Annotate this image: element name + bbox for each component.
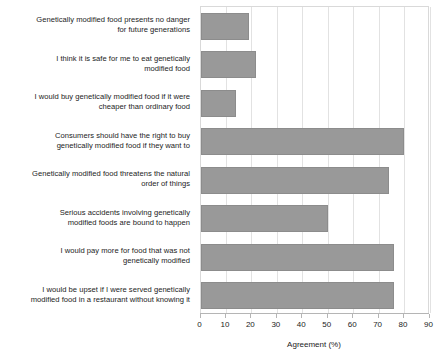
bar-series xyxy=(201,7,428,313)
plot-area xyxy=(200,6,429,314)
tick-mark-50 xyxy=(327,314,328,318)
category-label: Serious accidents involving genetically … xyxy=(0,208,190,228)
bar xyxy=(201,13,249,40)
gridline-90 xyxy=(430,7,431,313)
bar xyxy=(201,205,328,232)
tick-label-80: 80 xyxy=(390,320,416,329)
bar-chart: Genetically modified food presents no da… xyxy=(0,0,441,364)
tick-mark-80 xyxy=(403,314,404,318)
tick-label-20: 20 xyxy=(237,320,263,329)
category-label: I would be upset if I were served geneti… xyxy=(0,285,190,305)
x-axis-title: Agreement (%) xyxy=(199,340,429,349)
bar xyxy=(201,128,405,155)
x-axis-line xyxy=(200,313,429,314)
tick-mark-60 xyxy=(352,314,353,318)
tick-label-30: 30 xyxy=(263,320,289,329)
bar xyxy=(201,167,389,194)
tick-mark-20 xyxy=(250,314,251,318)
tick-label-90: 90 xyxy=(416,320,441,329)
category-label: I would buy genetically modified food if… xyxy=(0,92,190,112)
bar xyxy=(201,244,394,271)
tick-mark-90 xyxy=(429,314,430,318)
tick-label-0: 0 xyxy=(187,320,213,329)
tick-mark-30 xyxy=(276,314,277,318)
bar xyxy=(201,90,237,117)
bar xyxy=(201,282,394,309)
tick-mark-10 xyxy=(225,314,226,318)
category-label: Genetically modified food threatens the … xyxy=(0,169,190,189)
bar xyxy=(201,51,257,78)
category-label: Consumers should have the right to buy g… xyxy=(0,131,190,151)
category-label: Genetically modified food presents no da… xyxy=(0,15,190,35)
tick-label-50: 50 xyxy=(314,320,340,329)
category-label: I would pay more for food that was not g… xyxy=(0,246,190,266)
category-label: I think it is safe for me to eat genetic… xyxy=(0,54,190,74)
category-axis-labels: Genetically modified food presents no da… xyxy=(0,6,194,314)
tick-label-60: 60 xyxy=(339,320,365,329)
tick-mark-40 xyxy=(301,314,302,318)
tick-mark-70 xyxy=(378,314,379,318)
tick-label-40: 40 xyxy=(288,320,314,329)
tick-mark-0 xyxy=(200,314,201,318)
tick-label-10: 10 xyxy=(212,320,238,329)
tick-label-70: 70 xyxy=(365,320,391,329)
